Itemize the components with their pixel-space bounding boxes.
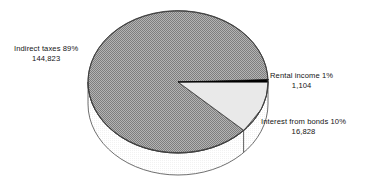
slice-label-indirect-taxes: Indirect taxes 89% 144,823 (14, 44, 78, 63)
slice-label-indirect-taxes-value: 144,823 (14, 54, 78, 64)
slice-label-indirect-taxes-title: Indirect taxes 89% (14, 44, 78, 54)
slice-label-interest-from-bonds: Interest from bonds 10% 16,828 (261, 117, 346, 136)
slice-label-interest-from-bonds-value: 16,828 (261, 127, 346, 137)
pie-top-face (88, 11, 268, 153)
slice-label-rental-income: Rental income 1% 1,104 (270, 71, 333, 90)
pie-chart-figure: Indirect taxes 89% 144,823 Rental income… (0, 0, 376, 178)
slice-label-interest-from-bonds-title: Interest from bonds 10% (261, 117, 346, 127)
slice-label-rental-income-value: 1,104 (270, 81, 333, 91)
slice-label-rental-income-title: Rental income 1% (270, 71, 333, 81)
